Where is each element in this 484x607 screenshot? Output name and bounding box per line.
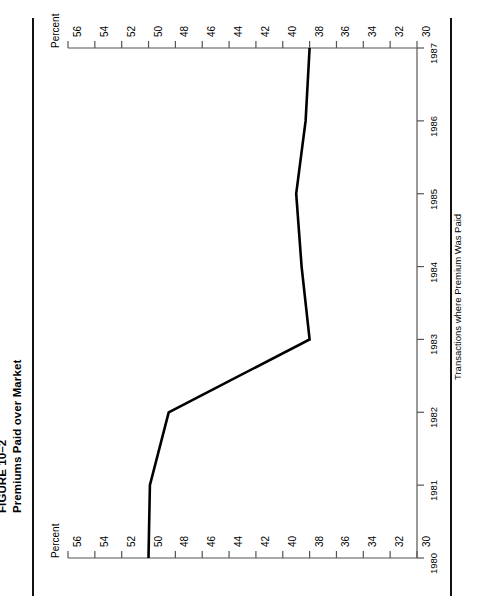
value-tick-label: 36 <box>340 26 351 37</box>
value-tick-label: 38 <box>314 26 325 37</box>
value-tick-label: 36 <box>340 536 351 547</box>
category-tick-label: 1984 <box>428 261 439 282</box>
value-tick-label: 56 <box>72 536 83 547</box>
value-tick-label: 42 <box>260 536 271 547</box>
category-tick-label: 1982 <box>428 407 439 428</box>
value-ticks-top <box>68 41 417 48</box>
line-chart-svg <box>0 0 484 607</box>
value-tick-label: 54 <box>99 26 110 37</box>
value-ticks-bottom <box>68 551 417 558</box>
value-tick-label: 52 <box>126 26 137 37</box>
category-axis-caption: Transactions where Premium Was Paid <box>452 214 463 380</box>
value-tick-label: 46 <box>206 536 217 547</box>
category-tick-label: 1987 <box>428 43 439 64</box>
value-tick-label: 34 <box>367 536 378 547</box>
value-tick-label: 44 <box>233 536 244 547</box>
value-tick-label: 46 <box>206 26 217 37</box>
chart-plot-area <box>0 0 484 607</box>
value-axis-caption-bottom: Percent <box>50 524 61 558</box>
category-tick-label: 1981 <box>428 480 439 501</box>
value-axis-caption-top: Percent <box>50 14 61 48</box>
value-tick-label: 48 <box>179 536 190 547</box>
value-tick-label: 44 <box>233 26 244 37</box>
value-tick-label: 38 <box>314 536 325 547</box>
value-tick-label: 56 <box>72 26 83 37</box>
value-tick-label: 30 <box>421 536 432 547</box>
category-tick-label: 1986 <box>428 116 439 137</box>
category-tick-label: 1983 <box>428 334 439 355</box>
value-tick-label: 32 <box>394 536 405 547</box>
value-tick-label: 54 <box>99 536 110 547</box>
value-tick-label: 34 <box>367 26 378 37</box>
value-tick-label: 42 <box>260 26 271 37</box>
data-series-line <box>149 48 310 558</box>
value-tick-label: 50 <box>153 536 164 547</box>
value-tick-label: 40 <box>287 26 298 37</box>
value-tick-label: 32 <box>394 26 405 37</box>
figure-page: FIGURE 10–2 Premiums Paid over Market 56… <box>0 0 484 607</box>
category-ticks <box>417 48 424 558</box>
value-tick-label: 48 <box>179 26 190 37</box>
value-tick-label: 40 <box>287 536 298 547</box>
value-tick-label: 50 <box>153 26 164 37</box>
value-tick-label: 52 <box>126 536 137 547</box>
category-tick-label: 1985 <box>428 189 439 210</box>
value-tick-label: 30 <box>421 26 432 37</box>
category-tick-label: 1980 <box>428 553 439 574</box>
